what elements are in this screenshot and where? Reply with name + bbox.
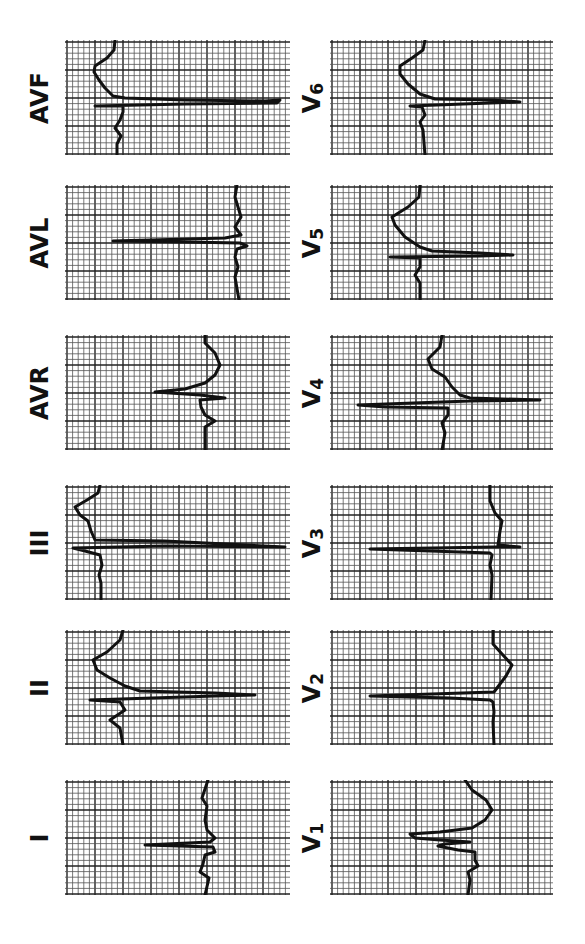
lead-label-v1: V1 — [297, 798, 327, 878]
ecg-grid — [330, 630, 553, 745]
ecg-panel-iii — [65, 485, 290, 600]
ecg-grid — [330, 40, 553, 155]
ecg-panel-i — [65, 780, 290, 895]
lead-label-ii: II — [25, 648, 55, 728]
ecg-panel-avr — [65, 335, 290, 450]
ecg-panel-ii — [65, 630, 290, 745]
lead-label-v2: V2 — [297, 648, 327, 728]
ecg-panel-v6 — [330, 40, 553, 155]
ecg-grid — [65, 485, 290, 600]
ecg-grid — [330, 780, 553, 895]
ecg-panel-v5 — [330, 185, 553, 300]
lead-label-v6: V6 — [297, 58, 327, 138]
ecg-grid — [65, 185, 290, 300]
lead-label-i: I — [25, 798, 55, 878]
ecg-panel-avl — [65, 185, 290, 300]
ecg-trace — [113, 185, 247, 300]
ecg-grid — [65, 40, 290, 155]
ecg-grid — [330, 185, 553, 300]
ecg-panel-v2 — [330, 630, 553, 745]
ecg-grid — [65, 335, 290, 450]
ecg-panel-v1 — [330, 780, 553, 895]
lead-label-v3: V3 — [297, 503, 327, 583]
ecg-panel-v4 — [330, 335, 553, 450]
ecg-panel-v3 — [330, 485, 553, 600]
ecg-panel-avf — [65, 40, 290, 155]
lead-label-avf: AVF — [25, 58, 55, 138]
lead-label-v5: V5 — [297, 203, 327, 283]
lead-label-avr: AVR — [25, 353, 55, 433]
ecg-grid — [330, 485, 553, 600]
ecg-grid — [330, 335, 553, 450]
ecg-grid — [65, 780, 290, 895]
lead-label-v4: V4 — [297, 353, 327, 433]
lead-label-iii: III — [25, 503, 55, 583]
lead-label-avl: AVL — [25, 203, 55, 283]
ecg-grid — [65, 630, 290, 745]
